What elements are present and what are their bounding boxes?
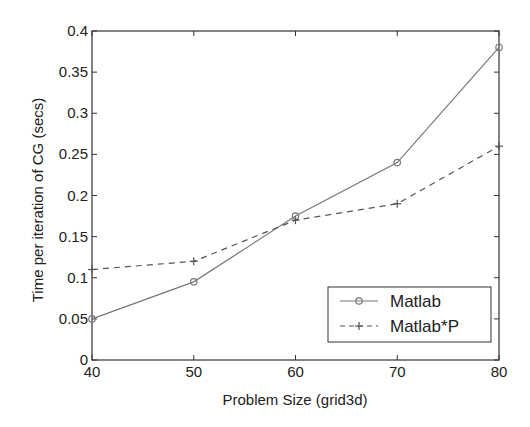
y-tick-label: 0.15: [59, 228, 88, 245]
series-line: [92, 146, 499, 269]
x-tick-label: 50: [185, 363, 202, 380]
y-tick-label: 0.35: [59, 63, 88, 80]
line-chart: 00.050.10.150.20.250.30.350.4 4050607080…: [0, 0, 530, 427]
y-axis-label: Time per iteration of CG (secs): [29, 98, 46, 303]
x-tick-label: 80: [491, 363, 508, 380]
x-tick-label: 70: [389, 363, 406, 380]
y-tick-label: 0.25: [59, 145, 88, 162]
y-tick-label: 0.1: [67, 269, 88, 286]
series-layer: [88, 44, 503, 322]
legend-label: Matlab*P: [390, 317, 459, 336]
x-axis-label: Problem Size (grid3d): [222, 391, 367, 408]
series-line: [92, 47, 499, 318]
legend-label: Matlab: [390, 292, 441, 311]
series-matlab: [89, 44, 502, 322]
x-tick-label: 40: [84, 363, 101, 380]
y-tick-label: 0.2: [67, 187, 88, 204]
y-tick-label: 0.05: [59, 310, 88, 327]
y-tick-label: 0.4: [67, 22, 88, 39]
x-tick-label: 60: [287, 363, 304, 380]
legend: MatlabMatlab*P: [328, 287, 491, 342]
series-matlab-p: [88, 142, 503, 273]
y-tick-label: 0.3: [67, 104, 88, 121]
